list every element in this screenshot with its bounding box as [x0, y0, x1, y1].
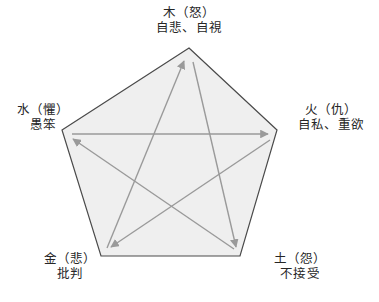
pentagon-outline: [62, 48, 277, 256]
node-trait-metal: 批判: [22, 267, 118, 282]
node-trait-water: 愚笨: [0, 118, 86, 133]
five-elements-pentagram-diagram: 木（怒） 自悲、自視 火（仇） 自私、重欲 水（懼） 愚笨 金（悲） 批判 土（…: [0, 0, 379, 302]
node-title-earth: 土（怨）: [252, 252, 348, 267]
node-trait-fire: 自私、重欲: [283, 118, 379, 133]
node-label-fire: 火（仇） 自私、重欲: [283, 103, 379, 134]
node-title-water: 水（懼）: [0, 103, 86, 118]
node-label-water: 水（懼） 愚笨: [0, 103, 86, 134]
node-title-wood: 木（怒）: [129, 6, 249, 21]
node-title-metal: 金（悲）: [22, 252, 118, 267]
node-label-earth: 土（怨） 不接受: [252, 252, 348, 283]
node-trait-wood: 自悲、自視: [129, 21, 249, 36]
node-label-wood: 木（怒） 自悲、自視: [129, 6, 249, 37]
node-label-metal: 金（悲） 批判: [22, 252, 118, 283]
node-title-fire: 火（仇）: [283, 103, 379, 118]
node-trait-earth: 不接受: [252, 267, 348, 282]
